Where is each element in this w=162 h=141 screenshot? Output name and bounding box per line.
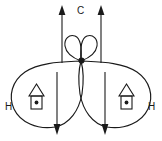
central-node-dot xyxy=(78,57,84,63)
carbon-atom-label: C xyxy=(77,6,84,16)
electron-box-right-dot xyxy=(125,101,129,105)
sp2-hybrid-orbital-right xyxy=(79,61,151,128)
sp2-hybrid-orbital-left xyxy=(11,61,83,128)
electron-box-left xyxy=(29,84,44,109)
p-orbital-lobe-right xyxy=(81,36,97,61)
electron-box-right xyxy=(119,84,134,109)
carbene-orbital-diagram: C H H xyxy=(0,0,162,141)
spin-arrow-down-right-head xyxy=(102,124,109,135)
hydrogen-atom-label-right: H xyxy=(148,102,155,112)
spin-arrow-up-right-head xyxy=(98,5,105,15)
spin-arrow-up-left-head xyxy=(59,5,66,15)
p-orbital-lobe-left xyxy=(65,36,81,61)
spin-arrow-down-left-head xyxy=(54,124,61,135)
electron-box-left-dot xyxy=(35,101,39,105)
diagram-canvas xyxy=(0,0,162,141)
electron-box-right-roof xyxy=(119,84,134,96)
hydrogen-atom-label-left: H xyxy=(5,102,12,112)
electron-box-left-roof xyxy=(29,84,44,96)
